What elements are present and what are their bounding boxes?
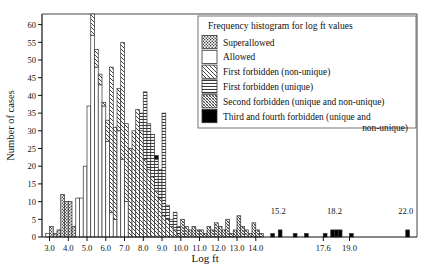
svg-text:15.2: 15.2 (271, 206, 286, 216)
svg-text:3.0: 3.0 (44, 243, 55, 253)
svg-text:6.0: 6.0 (100, 243, 111, 253)
svg-text:non-unique): non-unique) (362, 123, 408, 134)
svg-text:8.0: 8.0 (138, 243, 149, 253)
svg-text:55: 55 (28, 38, 37, 48)
svg-text:14.0: 14.0 (248, 243, 263, 253)
svg-text:13.0: 13.0 (230, 243, 245, 253)
chart-canvas: 0510152025303540455055603.04.05.06.07.08… (0, 0, 434, 270)
svg-text:19.0: 19.0 (342, 243, 357, 253)
svg-text:Frequency histogram for log ft: Frequency histogram for log ft values (208, 20, 353, 31)
svg-text:35: 35 (28, 108, 37, 118)
legend: Frequency histogram for log ft valuesSup… (198, 16, 416, 134)
svg-text:50: 50 (28, 55, 37, 65)
svg-text:Allowed: Allowed (223, 52, 256, 62)
svg-text:First forbidden (non-unique): First forbidden (non-unique) (223, 67, 330, 78)
svg-text:22.0: 22.0 (398, 206, 413, 216)
svg-text:20: 20 (28, 161, 37, 171)
svg-text:Third and fourth forbidden (un: Third and fourth forbidden (unique and (223, 112, 371, 123)
svg-text:45: 45 (28, 73, 37, 83)
svg-text:0: 0 (32, 232, 36, 242)
svg-text:4.0: 4.0 (63, 243, 74, 253)
svg-text:5: 5 (32, 215, 36, 225)
svg-text:7.0: 7.0 (119, 243, 130, 253)
value-annotations: 15.218.222.0 (271, 206, 413, 216)
svg-text:5.0: 5.0 (82, 243, 93, 253)
svg-text:60: 60 (28, 20, 37, 30)
svg-text:40: 40 (28, 91, 37, 101)
svg-text:18.2: 18.2 (327, 206, 342, 216)
svg-text:Superallowed: Superallowed (223, 38, 275, 48)
svg-text:9.0: 9.0 (157, 243, 168, 253)
histogram-figure: 0510152025303540455055603.04.05.06.07.08… (0, 0, 434, 270)
svg-text:25: 25 (28, 144, 37, 154)
svg-text:30: 30 (28, 126, 37, 136)
svg-text:Number of cases: Number of cases (5, 90, 16, 161)
svg-text:15: 15 (28, 179, 37, 189)
svg-text:17.6: 17.6 (316, 243, 331, 253)
svg-text:10.0: 10.0 (173, 243, 188, 253)
svg-text:Second forbidden (unique and n: Second forbidden (unique and non-unique) (223, 97, 384, 108)
svg-text:Log ft: Log ft (192, 252, 219, 264)
svg-text:10: 10 (28, 197, 37, 207)
svg-text:First forbidden (unique): First forbidden (unique) (223, 82, 313, 93)
